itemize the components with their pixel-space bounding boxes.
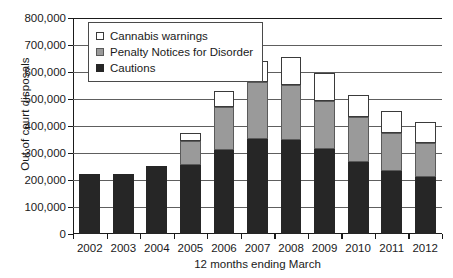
bar-segment[interactable] — [247, 139, 268, 234]
x-tick-label: 2009 — [312, 242, 338, 254]
bar-group[interactable] — [381, 18, 402, 234]
x-tick-mark — [375, 234, 376, 239]
bar-group[interactable] — [348, 18, 369, 234]
stacked-bar-chart: Out of court disposals 0100,000200,00030… — [0, 0, 453, 278]
bar-segment[interactable] — [415, 143, 436, 176]
y-tick-label: 200,000 — [24, 174, 66, 186]
x-tick-label: 2002 — [77, 242, 103, 254]
bar-segment[interactable] — [348, 117, 369, 161]
bar-segment[interactable] — [281, 140, 302, 234]
x-tick-mark — [341, 234, 342, 239]
x-tick-mark — [140, 234, 141, 239]
y-tick-label: 100,000 — [24, 201, 66, 213]
bar-segment[interactable] — [214, 91, 235, 107]
x-tick-label: 2010 — [345, 242, 371, 254]
bar-segment[interactable] — [180, 141, 201, 165]
x-tick-mark — [442, 234, 443, 239]
bar-segment[interactable] — [348, 95, 369, 117]
x-tick-mark — [308, 234, 309, 239]
bar-segment[interactable] — [247, 82, 268, 139]
y-tick-label: 500,000 — [24, 93, 66, 105]
bar-group[interactable] — [415, 18, 436, 234]
x-tick-label: 2003 — [111, 242, 137, 254]
x-tick-mark — [408, 234, 409, 239]
bar-segment[interactable] — [348, 162, 369, 234]
bar-segment[interactable] — [314, 73, 335, 101]
chart-legend: Cannabis warningsPenalty Notices for Dis… — [88, 22, 263, 82]
legend-swatch-pnd-icon — [96, 48, 104, 56]
legend-swatch-cannabis-icon — [96, 32, 104, 40]
bar-segment[interactable] — [214, 150, 235, 234]
y-tick-label: 800,000 — [24, 12, 66, 24]
legend-swatch-cautions-icon — [96, 64, 104, 72]
legend-label: Cautions — [110, 62, 155, 74]
x-tick-mark — [174, 234, 175, 239]
legend-item[interactable]: Cautions — [96, 60, 253, 76]
x-tick-label: 2012 — [412, 242, 438, 254]
legend-item[interactable]: Cannabis warnings — [96, 28, 253, 44]
x-tick-label: 2008 — [278, 242, 304, 254]
bar-segment[interactable] — [146, 166, 167, 234]
x-tick-label: 2011 — [379, 242, 404, 254]
bar-segment[interactable] — [180, 133, 201, 141]
bar-segment[interactable] — [381, 171, 402, 234]
bar-segment[interactable] — [381, 111, 402, 133]
y-tick-label: 0 — [60, 228, 66, 240]
bar-group[interactable] — [281, 18, 302, 234]
legend-label: Penalty Notices for Disorder — [110, 46, 253, 58]
y-tick-label: 700,000 — [24, 39, 66, 51]
bar-segment[interactable] — [214, 107, 235, 150]
x-tick-label: 2005 — [178, 242, 204, 254]
legend-label: Cannabis warnings — [110, 30, 208, 42]
legend-item[interactable]: Penalty Notices for Disorder — [96, 44, 253, 60]
x-tick-mark — [73, 234, 74, 239]
bar-group[interactable] — [314, 18, 335, 234]
x-tick-mark — [241, 234, 242, 239]
bar-segment[interactable] — [381, 133, 402, 170]
x-tick-label: 2007 — [245, 242, 271, 254]
x-axis-title: 12 months ending March — [73, 258, 442, 270]
y-tick-label: 600,000 — [24, 66, 66, 78]
bar-segment[interactable] — [281, 57, 302, 85]
x-tick-mark — [274, 234, 275, 239]
bar-segment[interactable] — [415, 122, 436, 143]
bar-segment[interactable] — [314, 101, 335, 149]
y-tick-label: 400,000 — [24, 120, 66, 132]
bar-segment[interactable] — [180, 165, 201, 234]
bar-segment[interactable] — [281, 85, 302, 140]
x-tick-label: 2004 — [144, 242, 170, 254]
y-tick-label: 300,000 — [24, 147, 66, 159]
bar-segment[interactable] — [79, 174, 100, 234]
x-tick-mark — [107, 234, 108, 239]
bar-segment[interactable] — [113, 174, 134, 234]
x-tick-mark — [207, 234, 208, 239]
x-tick-label: 2006 — [211, 242, 237, 254]
bar-segment[interactable] — [415, 177, 436, 235]
bar-segment[interactable] — [314, 149, 335, 234]
